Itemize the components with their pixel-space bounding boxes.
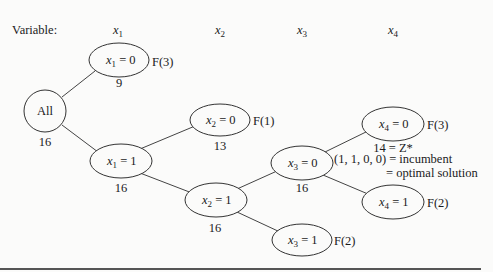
node-x3-0-label: x3 = 0 — [287, 156, 318, 172]
node-x1-0-fathom: F(3) — [152, 55, 174, 69]
column-header-x2: x2 — [214, 23, 225, 39]
node-x3-0-bound: 16 — [296, 181, 309, 195]
edge-x3-0-x4-1 — [323, 175, 368, 194]
variable-label: Variable: — [12, 23, 57, 37]
node-x2-0-label: x2 = 0 — [205, 113, 236, 129]
node-x1-1-bound: 16 — [115, 181, 128, 195]
edge-all-x1-1 — [62, 125, 98, 152]
node-x4-0-fathom: F(3) — [427, 118, 449, 132]
bottom-rule — [0, 268, 481, 270]
edge-x3-0-x4-0 — [325, 131, 368, 152]
edge-x1-1-x2-1 — [140, 173, 192, 193]
node-all-bound: 16 — [39, 135, 52, 149]
node-x1-0-label: x1 = 0 — [105, 53, 136, 69]
node-all-label: All — [37, 104, 54, 118]
column-header-x4: x4 — [387, 23, 399, 39]
node-x1-1-label: x1 = 1 — [106, 154, 137, 170]
node-x2-0-bound: 13 — [214, 139, 227, 153]
optimal-solution-annotation: = optimal solution — [386, 166, 479, 180]
edge-all-x1-0 — [62, 71, 95, 97]
node-x4-0-label: x4 = 0 — [378, 117, 409, 133]
edge-x2-1-x3-0 — [237, 171, 277, 189]
node-x3-1-fathom: F(2) — [334, 234, 356, 248]
column-header-x1: x1 — [112, 23, 123, 39]
node-x1-0-bound: 9 — [116, 76, 122, 90]
node-x2-1-bound: 16 — [209, 221, 222, 235]
column-header-x3: x3 — [296, 23, 308, 39]
node-x2-1-label: x2 = 1 — [201, 193, 232, 209]
node-x4-1-fathom: F(2) — [427, 196, 449, 210]
branch-and-bound-tree: Variable: x1 x2 x3 x4 All 16 x1 = 0 F(3)… — [0, 0, 493, 272]
edge-x1-1-x2-0 — [140, 126, 195, 149]
node-x2-0-fathom: F(1) — [253, 114, 275, 128]
incumbent-annotation: (1, 1, 0, 0) = incumbent — [334, 152, 453, 166]
edge-x2-1-x3-1 — [237, 212, 280, 232]
node-x4-1-label: x4 = 1 — [378, 195, 409, 211]
node-x3-1-label: x3 = 1 — [287, 233, 318, 249]
